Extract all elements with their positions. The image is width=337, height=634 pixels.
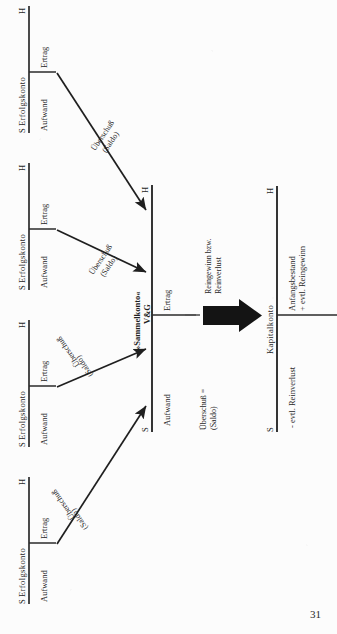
kapitalkonto-title: Kapitalkonto — [266, 305, 275, 354]
page-number: 31 — [310, 608, 321, 620]
erfolgskonto-3-debit-item: Aufwand — [40, 413, 49, 445]
erfolgskonto-1-debit-item: Aufwand — [40, 99, 49, 131]
sammelkonto-credit-side: H — [141, 187, 150, 193]
erfolgskonto-4-title: Erfolgskonto — [18, 548, 27, 597]
erfolgskonto-2-credit-side: H — [18, 165, 27, 171]
erfolgskonto-2-credit-item: Ertrag — [40, 204, 49, 225]
erfolgskonto-1-credit-side: H — [18, 8, 27, 14]
transfer-balance-line2: (Saldo) — [210, 406, 218, 430]
diagram-canvas — [0, 0, 337, 634]
erfolgskonto-4-credit-side: H — [18, 479, 27, 485]
erfolgskonto-3-credit-item: Ertrag — [40, 361, 49, 382]
erfolgskonto-2-debit-side: S — [18, 285, 27, 290]
transfer-arrow — [185, 299, 262, 332]
erfolgskonto-4-debit-item: Aufwand — [40, 570, 49, 602]
transfer-result-line1: Reingewinn bzw. — [205, 239, 213, 294]
erfolgskonto-1-title: Erfolgskonto — [18, 77, 27, 126]
erfolgskonto-4-debit-side: S — [18, 599, 27, 604]
erfolgskonto-1-credit-item: Ertrag — [40, 47, 49, 68]
transfer-result-line2: Reinverlust — [215, 257, 223, 294]
erfolgskonto-3-debit-side: S — [18, 442, 27, 447]
kapitalkonto-debit-item: - evtl. Reinverlust — [288, 367, 297, 428]
kapitalkonto-credit-side: H — [266, 188, 275, 194]
erfolgskonto-2-title: Erfolgskonto — [18, 234, 27, 283]
erfolgskonto-3-credit-side: H — [18, 322, 27, 328]
kapitalkonto-credit-item-line1: Anfangsbestand — [288, 256, 297, 311]
erfolgskonto-3-title: Erfolgskonto — [18, 391, 27, 440]
erfolgskonto-1-debit-side: S — [18, 128, 27, 133]
kapitalkonto-tshape — [277, 186, 337, 432]
kapitalkonto-credit-item-line2: + evtl. Reingewinn — [298, 246, 307, 311]
sammelkonto-title-line2: V&G — [143, 304, 152, 324]
sammelkonto-tshape — [152, 185, 196, 432]
kapitalkonto-debit-side: S — [266, 427, 275, 432]
scanned-page: H Erfolgskonto S Ertrag Aufwand H Erfolg… — [0, 0, 337, 634]
flow-arrow-4 — [57, 406, 146, 544]
sammelkonto-credit-item: Ertrag — [163, 290, 172, 311]
transfer-balance-line1: Überschuß = — [200, 389, 208, 430]
erfolgskonto-4-credit-item: Ertrag — [40, 518, 49, 539]
sammelkonto-debit-side: S — [141, 427, 150, 432]
sammelkonto-debit-item: Aufwand — [163, 394, 172, 426]
sammelkonto-title-line1: »Sammelkonto« — [133, 291, 142, 350]
erfolgskonto-2-debit-item: Aufwand — [40, 256, 49, 288]
